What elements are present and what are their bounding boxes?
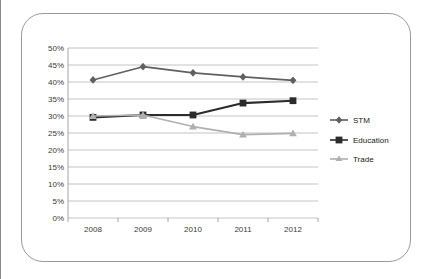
diamond-marker xyxy=(190,69,197,77)
diamond-marker xyxy=(90,76,97,84)
square-icon xyxy=(336,137,343,144)
legend-label-trade: Trade xyxy=(353,155,374,164)
series-stm xyxy=(90,63,297,84)
y-tick-label: 35% xyxy=(48,95,64,104)
legend-label-stm: STM xyxy=(353,116,370,125)
diamond-icon xyxy=(336,116,342,124)
legend-item-education[interactable]: Education xyxy=(330,136,389,145)
y-tick-label: 50% xyxy=(48,44,64,53)
diamond-marker xyxy=(140,63,147,71)
x-tick-label: 2011 xyxy=(234,225,252,234)
x-tick-label: 2009 xyxy=(134,225,152,234)
square-marker xyxy=(190,112,197,119)
y-tick-label: 40% xyxy=(48,78,64,87)
y-tick-label: 5% xyxy=(52,197,64,206)
line-chart: 50% 45% 40% 35% 30% 25% 20% 15% 10% 5% 0… xyxy=(0,0,428,279)
y-tick-label: 15% xyxy=(48,163,64,172)
legend: STM Education Trade xyxy=(330,116,389,164)
y-tick-label: 10% xyxy=(48,180,64,189)
x-tick-label: 2012 xyxy=(284,225,302,234)
y-tick-label: 30% xyxy=(48,112,64,121)
page-canvas: 50% 45% 40% 35% 30% 25% 20% 15% 10% 5% 0… xyxy=(0,0,428,279)
y-tick-label: 0% xyxy=(52,214,64,223)
series-layer xyxy=(89,63,297,138)
x-tick-label: 2008 xyxy=(84,225,102,234)
y-tick-label: 20% xyxy=(48,146,64,155)
y-tick-label: 25% xyxy=(48,129,64,138)
series-education xyxy=(90,97,297,120)
square-marker xyxy=(290,97,297,104)
y-axis-tick-labels: 50% 45% 40% 35% 30% 25% 20% 15% 10% 5% 0… xyxy=(48,44,64,223)
chart-svg: 50% 45% 40% 35% 30% 25% 20% 15% 10% 5% 0… xyxy=(0,0,428,279)
legend-item-stm[interactable]: STM xyxy=(330,116,370,125)
diamond-marker xyxy=(240,73,247,81)
legend-label-education: Education xyxy=(353,136,389,145)
y-tick-label: 45% xyxy=(48,61,64,70)
x-tick-label: 2010 xyxy=(184,225,202,234)
x-axis-tick-labels: 2008 2009 2010 2011 2012 xyxy=(84,225,302,234)
legend-item-trade[interactable]: Trade xyxy=(330,155,374,164)
square-marker xyxy=(240,100,247,107)
diamond-marker xyxy=(290,76,297,84)
x-axis-ticks xyxy=(68,218,318,222)
